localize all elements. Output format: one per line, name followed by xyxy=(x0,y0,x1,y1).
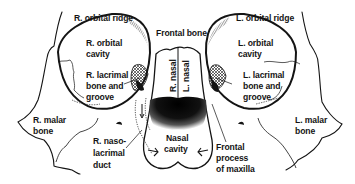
label-frontal-process-line2: process xyxy=(216,153,248,163)
label-l-malar-line2: bone xyxy=(295,126,315,136)
left-skull-outline xyxy=(286,12,342,170)
label-l-lacrimal-line1: L. lacrimal xyxy=(243,70,284,80)
label-nasal-cavity-line2: cavity xyxy=(164,144,188,154)
label-l-orbital-ridge: L. orbital ridge xyxy=(236,13,294,23)
label-l-orbital-cavity-line2: cavity xyxy=(238,49,262,59)
label-r-orbital-ridge: R. orbital ridge xyxy=(74,13,133,23)
label-r-malar-line2: bone xyxy=(33,126,53,136)
right-infraorbital-foramen xyxy=(116,122,122,125)
label-l-lacrimal-line2: bone and xyxy=(243,81,280,91)
label-r-lacrimal-line2: bone and xyxy=(86,81,123,91)
label-r-orbital-cavity-line1: R. orbital xyxy=(86,38,122,48)
label-r-malar-line1: R. malar xyxy=(33,115,66,125)
label-r-nasal: R. nasal xyxy=(168,59,178,92)
label-r-nasolacrimal-line3: duct xyxy=(93,160,111,170)
label-r-lacrimal-line3: groove xyxy=(86,92,114,102)
label-r-nasolacrimal-line1: R. naso- xyxy=(93,136,126,146)
label-l-nasal: L. nasal xyxy=(181,60,191,92)
label-r-orbital-cavity-line2: cavity xyxy=(86,49,110,59)
label-l-orbital-cavity-line1: L. orbital xyxy=(238,38,273,48)
label-l-malar-line1: L. malar xyxy=(295,115,327,125)
label-nasal-cavity-line1: Nasal xyxy=(166,133,188,143)
label-l-lacrimal-line3: groove xyxy=(243,92,271,102)
label-r-lacrimal-line1: R. lacrimal xyxy=(86,70,128,80)
label-frontal-process-line3: of maxilla xyxy=(216,164,255,174)
label-r-nasolacrimal-line2: lacrimal xyxy=(93,148,125,158)
left-infraorbital-foramen xyxy=(238,122,244,125)
label-frontal-bone: Frontal bone xyxy=(156,28,207,38)
facial-bones-diagram: R. orbital ridge Frontal bone L. orbital… xyxy=(0,0,355,184)
label-frontal-process-line1: Frontal xyxy=(216,142,244,152)
